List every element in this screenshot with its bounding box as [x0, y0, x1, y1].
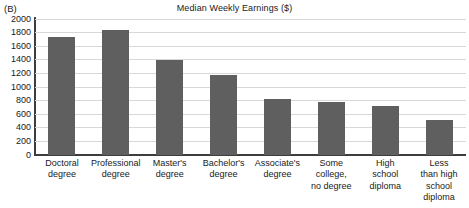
x-axis-category-label-line: degree [197, 169, 251, 180]
bar [372, 106, 399, 155]
x-axis-category-label-line: Associate's [251, 158, 305, 169]
bar [264, 99, 291, 155]
x-axis-category-label: Professionaldegree [89, 158, 143, 181]
x-axis-category-label-line: degree [35, 169, 89, 180]
x-axis-category-label-line: degree [89, 169, 143, 180]
x-axis-category-label-line: diploma [412, 192, 466, 203]
x-axis-baseline [35, 154, 466, 155]
bar [102, 30, 129, 155]
x-axis-category-label: Associate'sdegree [251, 158, 305, 181]
x-axis-category-label: Doctoraldegree [35, 158, 89, 181]
x-axis-category-label: Lessthan highschooldiploma [412, 158, 466, 204]
bar [156, 60, 183, 155]
bar [426, 120, 453, 155]
x-axis-category-label-line: Less [412, 158, 466, 169]
gridline [35, 19, 466, 20]
gridline [35, 114, 466, 115]
gridline [35, 87, 466, 88]
y-axis-tick-label: 1800 [1, 28, 31, 37]
x-axis-category-label-line: Doctoral [35, 158, 89, 169]
x-axis-category-label-line: Bachelor's [197, 158, 251, 169]
chart-title: Median Weekly Earnings ($) [0, 3, 469, 14]
y-axis-tick-label: 800 [1, 96, 31, 105]
x-axis-category-label-line: no degree [304, 181, 358, 192]
x-axis-category-label-line: Professional [89, 158, 143, 169]
x-axis-category-label: Highschooldiploma [358, 158, 412, 192]
bar [318, 102, 345, 155]
y-axis-tick-label: 0 [1, 151, 31, 160]
x-axis-category-label-line: Master's [143, 158, 197, 169]
x-axis-category-label: Master'sdegree [143, 158, 197, 181]
y-axis-tick-label: 600 [1, 110, 31, 119]
gridline [35, 127, 466, 128]
y-axis-tick-label: 2000 [1, 15, 31, 24]
x-axis-category-label-line: school [412, 181, 466, 192]
bar [48, 37, 75, 155]
x-axis-category-labels: DoctoraldegreeProfessionaldegreeMaster's… [35, 158, 466, 208]
x-axis-category-label-line: school [358, 169, 412, 180]
x-axis-category-label-line: Some [304, 158, 358, 169]
x-axis-category-label-line: High [358, 158, 412, 169]
y-axis-tick-label: 400 [1, 123, 31, 132]
x-axis-category-label-line: degree [143, 169, 197, 180]
gridline [35, 32, 466, 33]
y-axis-tick-label: 1200 [1, 69, 31, 78]
x-axis-category-label-line: college, [304, 169, 358, 180]
gridline [35, 73, 466, 74]
y-axis-tick-label: 1400 [1, 55, 31, 64]
y-axis-tick-labels: 0200400600800100012001400160018002000 [0, 19, 31, 155]
y-axis-tick-label: 1000 [1, 83, 31, 92]
y-axis-tick-label: 200 [1, 137, 31, 146]
chart-figure: (B) Median Weekly Earnings ($) 020040060… [0, 0, 469, 208]
plot-area [35, 19, 466, 155]
x-axis-category-label-line: than high [412, 169, 466, 180]
gridline [35, 100, 466, 101]
x-axis-category-label-line: diploma [358, 181, 412, 192]
bar [210, 75, 237, 155]
gridline [35, 141, 466, 142]
x-axis-category-label-line: degree [251, 169, 305, 180]
x-axis-category-label: Bachelor'sdegree [197, 158, 251, 181]
gridline [35, 59, 466, 60]
y-axis-tick-label: 1600 [1, 42, 31, 51]
x-axis-category-label: Somecollege,no degree [304, 158, 358, 192]
gridline [35, 46, 466, 47]
